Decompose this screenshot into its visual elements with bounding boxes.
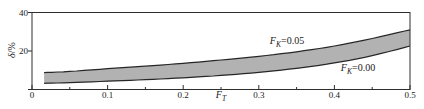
figure-root: δ/% FT 40 20 0 0.1 0.2 0.3 0.4 0.5 FK=0.…: [0, 0, 424, 109]
x-tick-label-0.5: 0.5: [404, 90, 415, 100]
y-tick-label-20: 20: [0, 46, 28, 56]
x-axis-label: FT: [216, 89, 226, 100]
annotation-fk-0.00-value: =0.00: [352, 62, 375, 73]
chart-svg: [0, 0, 424, 109]
x-tick-label-0.1: 0.1: [102, 90, 113, 100]
x-tick-label-0: 0: [30, 90, 35, 100]
x-tick-label-0.2: 0.2: [178, 90, 189, 100]
x-tick-label-0.3: 0.3: [253, 90, 264, 100]
annotation-fk-0.05-value: =0.05: [281, 35, 304, 46]
annotation-fk-0.00: FK=0.00: [341, 62, 375, 73]
y-tick-label-40: 40: [0, 8, 28, 18]
y-axis-ticks: [28, 13, 32, 90]
x-tick-label-0.4: 0.4: [329, 90, 340, 100]
annotation-fk-0.05: FK=0.05: [270, 35, 304, 46]
x-axis-label-subscript: T: [222, 94, 226, 103]
